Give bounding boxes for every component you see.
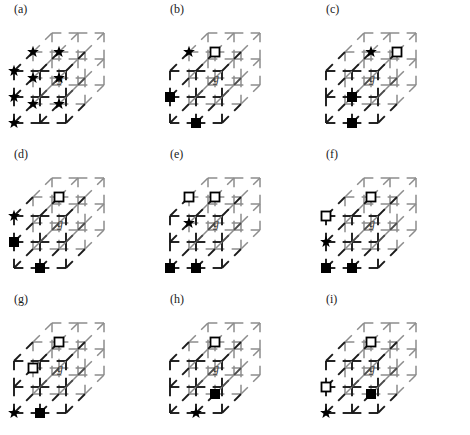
lattice-edge-segment [409, 349, 416, 356]
lattice-edge-segment [189, 71, 196, 78]
lattice-edge-segment [26, 249, 33, 256]
lattice-edge-segment [14, 380, 21, 387]
lattice-edge-segment [97, 204, 104, 211]
open-square-marker [211, 338, 220, 347]
lattice-edge-segment [40, 354, 47, 361]
lattice-edge-segment [390, 223, 397, 230]
lattice-edge-segment [45, 178, 52, 185]
lattice-edge-segment [78, 342, 85, 349]
lattice-edge-segment [85, 71, 92, 78]
lattice-edge-segment [14, 261, 21, 268]
lattice-canvas-a: g [0, 0, 155, 145]
lattice-edge-segment [66, 354, 73, 361]
lattice-edge-segment [170, 406, 177, 413]
filled-square-marker [191, 263, 201, 273]
lattice-edge-segment [241, 45, 248, 52]
lattice-edge-segment [85, 242, 92, 249]
lattice-edge-segment [253, 85, 260, 92]
lattice-edge-segment [40, 90, 47, 97]
open-square-marker [367, 193, 376, 202]
lattice-edge-segment [234, 249, 241, 256]
lattice-edge-segment [78, 394, 85, 401]
filled-square-marker [321, 263, 331, 273]
lattice-edge-segment [397, 335, 404, 342]
lattice-edge-segment [253, 230, 260, 237]
lattice-edge-segment [234, 368, 241, 375]
lattice-edge-segment [222, 90, 229, 97]
lattice-edge-segment [182, 78, 189, 85]
lattice-edge-segment [227, 323, 234, 330]
open-square-marker [55, 338, 64, 347]
lattice-edge-segment [189, 387, 196, 394]
lattice-edge-segment [71, 323, 78, 330]
lattice-edge-segment [253, 375, 260, 382]
lattice-edge-segment [40, 209, 47, 216]
filled-square-marker [35, 408, 45, 418]
lattice-edge-segment [397, 242, 404, 249]
filled-square-marker [191, 118, 201, 128]
open-square-marker [185, 193, 194, 202]
lattice-edge-segment [59, 242, 66, 249]
lattice-edge-segment [409, 178, 416, 185]
lattice-edge-segment [196, 90, 203, 97]
lattice-edge-segment [85, 335, 92, 342]
lattice-edge-segment [378, 380, 385, 387]
lattice-edge-segment [253, 204, 260, 211]
lattice-edge-segment [390, 368, 397, 375]
lattice-edge-segment [59, 387, 66, 394]
lattice-edge-segment [222, 64, 229, 71]
lattice-edge-segment [397, 190, 404, 197]
lattice-edge-segment [352, 235, 359, 242]
lattice-edge-segment [378, 354, 385, 361]
open-square-marker [211, 48, 220, 57]
lattice-edge-segment [390, 249, 397, 256]
lattice-edge-segment [222, 261, 229, 268]
lattice-edge-segment [338, 394, 345, 401]
lattice-canvas-g: g [0, 290, 155, 435]
lattice-edge-segment [196, 354, 203, 361]
lattice-edge-segment [409, 33, 416, 40]
lattice-canvas-e: g [156, 145, 311, 290]
lattice-edge-segment [85, 216, 92, 223]
lattice-edge-segment [222, 354, 229, 361]
coupling-label-g: g [213, 71, 219, 85]
lattice-edge-segment [409, 230, 416, 237]
lattice-panel-b: (b)g [156, 0, 311, 145]
lattice-edge-segment [196, 235, 203, 242]
coupling-label-g: g [57, 216, 63, 230]
lattice-edge-segment [97, 33, 104, 40]
open-square-marker [393, 48, 402, 57]
lattice-edge-segment [253, 33, 260, 40]
lattice-edge-segment [397, 97, 404, 104]
lattice-edge-segment [26, 197, 33, 204]
lattice-edge-segment [97, 349, 104, 356]
filled-square-marker [165, 263, 175, 273]
lattice-edge-segment [85, 45, 92, 52]
lattice-edge-segment [85, 190, 92, 197]
lattice-edge-segment [215, 97, 222, 104]
lattice-edge-segment [241, 97, 248, 104]
lattice-edge-segment [26, 223, 33, 230]
lattice-edge-segment [66, 116, 73, 123]
lattice-edge-segment [78, 223, 85, 230]
lattice-edge-segment [14, 354, 21, 361]
lattice-edge-segment [345, 216, 352, 223]
lattice-edge-segment [170, 354, 177, 361]
lattice-edge-segment [345, 387, 352, 394]
lattice-edge-segment [222, 209, 229, 216]
lattice-edge-segment [170, 380, 177, 387]
lattice-edge-segment [97, 59, 104, 66]
lattice-edge-segment [182, 104, 189, 111]
lattice-edge-segment [352, 209, 359, 216]
lattice-edge-segment [66, 261, 73, 268]
lattice-edge-segment [378, 90, 385, 97]
lattice-edge-segment [66, 209, 73, 216]
lattice-edge-segment [33, 242, 40, 249]
lattice-edge-segment [241, 71, 248, 78]
lattice-canvas-c: g [312, 0, 467, 145]
lattice-edge-segment [390, 342, 397, 349]
lattice-edge-segment [345, 190, 352, 197]
lattice-edge-segment [196, 64, 203, 71]
lattice-edge-segment [182, 394, 189, 401]
lattice-edge-segment [397, 71, 404, 78]
